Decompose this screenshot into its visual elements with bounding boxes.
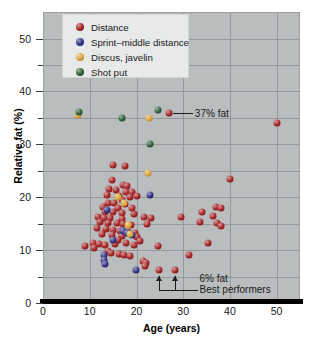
data-point bbox=[144, 220, 151, 227]
data-point bbox=[130, 241, 137, 248]
data-point bbox=[154, 243, 161, 250]
gridline-vertical bbox=[277, 12, 278, 303]
data-point bbox=[197, 218, 204, 225]
data-point bbox=[109, 177, 116, 184]
y-axis-tick bbox=[36, 91, 43, 92]
x-axis-baseline bbox=[40, 299, 303, 304]
data-point bbox=[226, 176, 233, 183]
data-point bbox=[177, 214, 184, 221]
y-axis-tick-label: 10 bbox=[5, 245, 31, 255]
data-point bbox=[108, 249, 115, 256]
x-axis-tick-label: 40 bbox=[218, 306, 242, 316]
data-point bbox=[171, 266, 178, 273]
annotation-6pct-label: 6% fat bbox=[200, 273, 228, 284]
gridline-horizontal bbox=[43, 224, 300, 225]
y-axis-tick bbox=[38, 171, 43, 172]
data-point bbox=[154, 106, 161, 113]
data-point bbox=[146, 191, 153, 198]
data-point bbox=[185, 252, 192, 259]
data-point bbox=[198, 208, 205, 215]
legend-label: Distance bbox=[91, 22, 129, 33]
legend-label: Sprint–middle distance bbox=[91, 37, 189, 48]
data-point bbox=[115, 193, 122, 200]
y-axis-tick bbox=[36, 144, 43, 145]
legend-swatch-icon bbox=[76, 23, 84, 31]
data-point bbox=[137, 237, 144, 244]
legend-swatch-icon bbox=[76, 53, 84, 61]
annotation-arrowhead-right bbox=[172, 276, 178, 281]
legend-swatch-icon bbox=[76, 38, 84, 46]
data-point bbox=[126, 193, 133, 200]
data-point bbox=[75, 109, 82, 116]
annotation-best-performers-label: Best performers bbox=[200, 284, 271, 295]
x-axis-tick-label: 30 bbox=[171, 306, 195, 316]
data-point bbox=[101, 261, 108, 268]
data-point bbox=[134, 192, 141, 199]
data-point bbox=[204, 240, 211, 247]
x-axis-tick-label: 0 bbox=[31, 306, 55, 316]
data-point bbox=[91, 245, 98, 252]
legend-item-2: Discus, javelin bbox=[76, 50, 188, 64]
data-point bbox=[110, 162, 117, 169]
legend-item-3: Shot put bbox=[76, 65, 188, 79]
data-point bbox=[218, 204, 225, 211]
data-point bbox=[141, 263, 148, 270]
data-point bbox=[82, 243, 89, 250]
legend-label: Discus, javelin bbox=[91, 52, 153, 63]
data-point bbox=[103, 192, 110, 199]
x-axis-tick-label: 50 bbox=[265, 306, 289, 316]
y-axis-tick-label: 50 bbox=[5, 34, 31, 44]
gridline-horizontal bbox=[43, 197, 300, 198]
data-point bbox=[166, 110, 173, 117]
scatter-chart-figure: 37% fat6% fatBest performers 01020304050… bbox=[0, 0, 310, 340]
y-axis-title: Relative fat (%) bbox=[12, 86, 24, 206]
annotation-bracket-base bbox=[159, 290, 175, 291]
gridline-horizontal bbox=[43, 118, 300, 119]
annotation-arrowhead-left bbox=[156, 276, 162, 281]
gridline-horizontal bbox=[43, 250, 300, 251]
gridline-horizontal bbox=[43, 144, 300, 145]
y-axis-tick-label: 0 bbox=[5, 298, 31, 308]
data-point bbox=[273, 119, 280, 126]
y-axis-tick bbox=[38, 224, 43, 225]
y-axis-tick bbox=[38, 65, 43, 66]
legend-label: Shot put bbox=[91, 67, 127, 78]
data-point bbox=[119, 115, 126, 122]
annotation-bracket-leader bbox=[175, 290, 198, 291]
data-point bbox=[121, 163, 128, 170]
y-axis-tick bbox=[36, 39, 43, 40]
data-point bbox=[146, 141, 153, 148]
data-point bbox=[123, 240, 130, 247]
y-axis-tick bbox=[38, 277, 43, 278]
gridline-horizontal bbox=[43, 171, 300, 172]
data-point bbox=[121, 200, 128, 207]
data-point bbox=[110, 236, 117, 243]
y-axis-tick bbox=[36, 197, 43, 198]
data-point bbox=[126, 231, 133, 238]
data-point bbox=[155, 267, 162, 274]
legend-item-0: Distance bbox=[76, 20, 188, 34]
data-point bbox=[132, 266, 139, 273]
data-point bbox=[126, 253, 133, 260]
data-point bbox=[103, 207, 110, 214]
gridline-vertical bbox=[230, 12, 231, 303]
data-point bbox=[144, 170, 151, 177]
annotation-37pct-label: 37% fat bbox=[195, 108, 229, 119]
y-axis-tick bbox=[38, 118, 43, 119]
x-axis-tick-label: 20 bbox=[125, 306, 149, 316]
legend-swatch-icon bbox=[76, 68, 84, 76]
data-point bbox=[217, 222, 224, 229]
annotation-leader-37pct bbox=[173, 113, 193, 114]
y-axis-tick bbox=[36, 250, 43, 251]
y-axis-tick bbox=[36, 303, 43, 304]
x-axis-tick-label: 10 bbox=[78, 306, 102, 316]
data-point bbox=[98, 231, 105, 238]
legend-item-1: Sprint–middle distance bbox=[76, 35, 188, 49]
data-point bbox=[125, 221, 132, 228]
data-point bbox=[128, 204, 135, 211]
x-axis-title: Age (years) bbox=[43, 322, 300, 334]
legend: DistanceSprint–middle distanceDiscus, ja… bbox=[62, 14, 189, 78]
data-point bbox=[145, 115, 152, 122]
gridline-horizontal bbox=[43, 91, 300, 92]
